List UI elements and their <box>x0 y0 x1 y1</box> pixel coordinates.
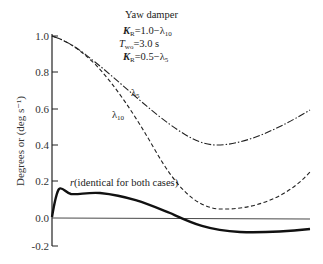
series-lambda10-label: λ10 <box>112 109 125 122</box>
ytick-label: 0.4 <box>35 139 49 151</box>
series-r-line <box>52 188 310 232</box>
annotation-kr-1: KR=1.0−λ10 <box>122 25 172 38</box>
ytick-label: -0.2 <box>32 240 49 252</box>
series-lambda5-line <box>52 36 310 145</box>
annotation-title: Yaw damper <box>125 9 178 20</box>
ytick-label: 0.2 <box>35 175 49 187</box>
ytick-label: 1.0 <box>35 30 49 42</box>
annotation-two: Two=3.0 s <box>119 38 159 51</box>
chart: 1.0 0.8 0.6 0.4 0.2 0.0 -0.2 Degrees or … <box>0 0 323 264</box>
y-axis-label: Degrees or (deg s⁻¹) <box>14 96 27 186</box>
ytick-label: 0.0 <box>35 212 49 224</box>
ytick-label: 0.6 <box>35 103 49 115</box>
series-r-label: r(identical for both cases) <box>70 177 179 189</box>
series-lambda5-label: λ5 <box>131 87 140 100</box>
annotation-kr-2: KR=0.5−λ5 <box>122 51 169 64</box>
ytick-label: 0.8 <box>35 66 49 78</box>
